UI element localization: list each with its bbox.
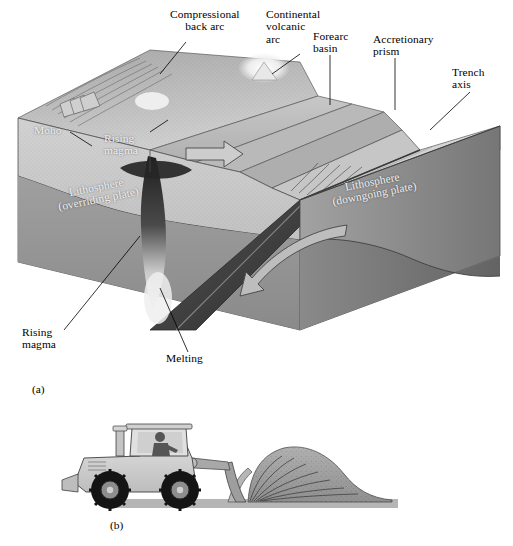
cab-roof — [126, 424, 192, 429]
label-rising-magma-upper: Rising magma — [104, 132, 138, 157]
label-trench-axis: Trench axis — [452, 66, 484, 91]
label-moho: Moho — [34, 124, 62, 136]
label-rising-magma-lower: Rising magma — [22, 326, 56, 351]
label-accretionary-prism: Accretionary prism — [373, 33, 434, 58]
label-forearc-basin: Forearc basin — [313, 30, 348, 55]
rear-wheel — [89, 469, 131, 511]
label-melting: Melting — [166, 352, 203, 364]
melting-zone — [144, 272, 172, 324]
soil-wedge — [228, 447, 392, 502]
panel-a-id: (a) — [32, 383, 45, 395]
panel-b-bulldozer — [0, 410, 513, 530]
front-wheel — [159, 469, 201, 511]
panel-b-id: (b) — [110, 519, 123, 531]
figure-subduction-zone: Compressional back arc Continental volca… — [0, 0, 513, 546]
label-compressional-back-arc: Compressional back arc — [170, 8, 240, 33]
exhaust-stack — [116, 430, 124, 456]
stack-cap — [113, 426, 127, 431]
back-arc-vent — [135, 92, 169, 110]
blade-lift-arm — [192, 458, 230, 470]
rear-counterweight — [62, 474, 78, 492]
